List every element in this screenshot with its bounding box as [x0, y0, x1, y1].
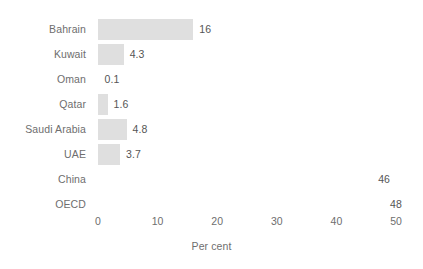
- x-axis-title: Per cent: [0, 240, 423, 252]
- chart-row: UAE 3.7: [0, 142, 423, 167]
- category-label: China: [0, 167, 86, 192]
- x-axis: 0 10 20 30 40 50: [0, 213, 423, 233]
- value-label: 4.8: [133, 117, 148, 142]
- bar: [98, 144, 120, 165]
- category-label: Kuwait: [0, 42, 86, 67]
- plot-area: Bahrain 16 Kuwait 4.3 Oman 0.1 Qatar 1.6…: [0, 0, 423, 269]
- category-label: Bahrain: [0, 17, 86, 42]
- bar: [98, 44, 124, 65]
- x-tick-label: 40: [331, 213, 343, 229]
- x-tick-label: 0: [95, 213, 101, 229]
- value-label: 1.6: [114, 92, 129, 117]
- category-label: Saudi Arabia: [0, 117, 86, 142]
- value-label: 16: [199, 17, 211, 42]
- chart-row: Qatar 1.6: [0, 92, 423, 117]
- value-label: 4.3: [130, 42, 145, 67]
- bar: [98, 94, 108, 115]
- category-label: Qatar: [0, 92, 86, 117]
- chart-row: Kuwait 4.3: [0, 42, 423, 67]
- category-label: Oman: [0, 67, 86, 92]
- bar: [98, 19, 193, 40]
- chart-row: China 46: [0, 167, 423, 192]
- x-tick-label: 20: [211, 213, 223, 229]
- value-label: 0.1: [105, 67, 120, 92]
- chart-row: Bahrain 16: [0, 17, 423, 42]
- category-label: UAE: [0, 142, 86, 167]
- value-label: 46: [378, 167, 390, 192]
- x-tick-label: 50: [390, 213, 402, 229]
- x-tick-label: 30: [271, 213, 283, 229]
- chart-row: Oman 0.1: [0, 67, 423, 92]
- chart-row: Saudi Arabia 4.8: [0, 117, 423, 142]
- bar-chart: Bahrain 16 Kuwait 4.3 Oman 0.1 Qatar 1.6…: [0, 0, 423, 269]
- x-tick-label: 10: [152, 213, 164, 229]
- bar: [98, 119, 127, 140]
- value-label: 3.7: [126, 142, 141, 167]
